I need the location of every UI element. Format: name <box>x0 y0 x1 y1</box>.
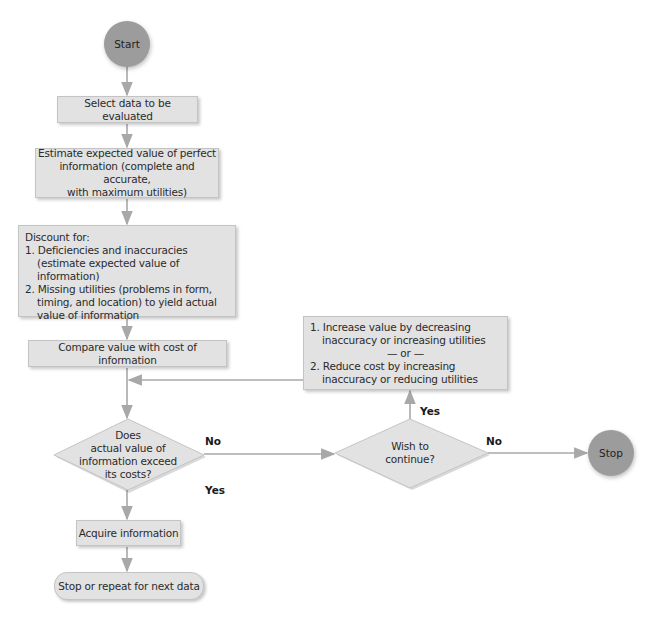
discount-item-1: 1. Deficiencies and inaccuracies (estima… <box>25 244 229 283</box>
select-data-box: Select data to be evaluated <box>57 96 198 123</box>
decision-value-line-2: actual value of <box>91 442 166 455</box>
decision-continue-line-2: continue? <box>385 453 434 466</box>
compare-label: Compare value with cost of information <box>29 341 226 367</box>
start-label: Start <box>114 38 140 50</box>
select-data-label: Select data to be evaluated <box>58 97 197 123</box>
decision-value-line-1: Does <box>115 429 141 442</box>
start-terminal: Start <box>104 21 150 67</box>
acquire-label: Acquire information <box>79 527 179 540</box>
adjust-item-1: 1. Increase value by decreasing inaccura… <box>310 321 501 347</box>
stop-label: Stop <box>599 447 623 459</box>
decision-continue-text: Wish to continue? <box>365 436 455 470</box>
adjust-separator: — or — <box>310 347 501 360</box>
flowchart: Start Select data to be evaluated Estima… <box>0 0 655 618</box>
decision-value-text: Does actual value of information exceed … <box>68 422 188 488</box>
estimate-line-2: information (complete and accurate, <box>36 160 218 186</box>
stop-terminal: Stop <box>588 430 634 476</box>
label-continue-yes: Yes <box>420 405 440 417</box>
label-value-no: No <box>205 435 221 447</box>
decision-value-line-3: information exceed <box>79 455 177 468</box>
discount-box: Discount for: 1. Deficiencies and inaccu… <box>18 225 236 317</box>
acquire-box: Acquire information <box>76 520 181 546</box>
discount-item-2: 2. Missing utilities (problems in form, … <box>25 283 229 322</box>
adjust-item-2: 2. Reduce cost by increasing inaccuracy … <box>310 360 501 386</box>
label-continue-no: No <box>486 435 502 447</box>
compare-box: Compare value with cost of information <box>28 340 227 367</box>
stop-or-repeat-label: Stop or repeat for next data <box>58 580 199 593</box>
decision-continue-line-1: Wish to <box>391 440 429 453</box>
discount-heading: Discount for: <box>25 231 90 244</box>
stop-or-repeat-terminal: Stop or repeat for next data <box>54 572 204 600</box>
estimate-value-box: Estimate expected value of perfect infor… <box>35 148 219 198</box>
estimate-line-3: with maximum utilities) <box>67 186 187 199</box>
label-value-yes: Yes <box>205 484 225 496</box>
estimate-line-1: Estimate expected value of perfect <box>38 147 216 160</box>
decision-value-line-4: its costs? <box>105 468 152 481</box>
adjust-box: 1. Increase value by decreasing inaccura… <box>303 316 508 390</box>
